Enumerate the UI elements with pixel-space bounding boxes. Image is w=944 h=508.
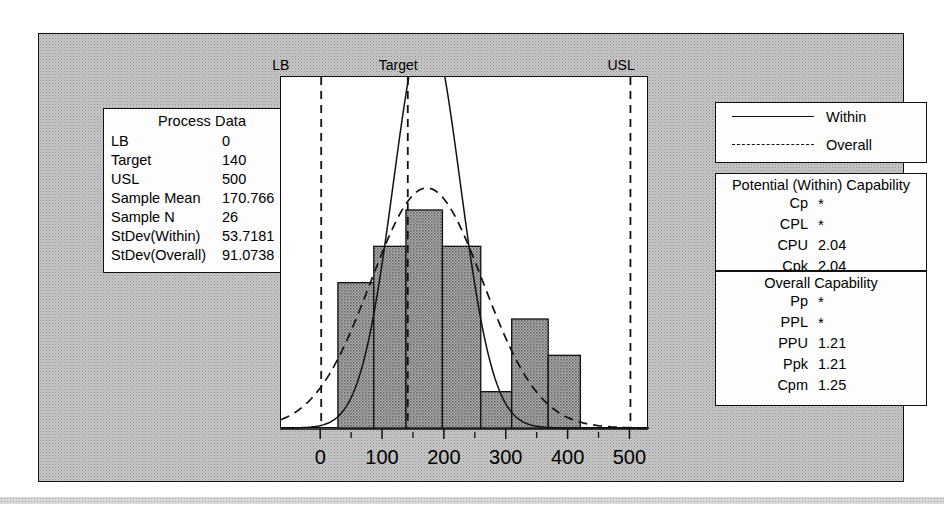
table-row: PPU 1.21 <box>716 333 926 354</box>
row-label: PPU <box>716 333 818 354</box>
row-value: 1.25 <box>818 375 878 396</box>
row-label: Cpm <box>716 375 818 396</box>
table-row: Sample N 26 <box>104 208 300 227</box>
overall-capability-title: Overall Capability <box>716 272 926 291</box>
within-capability-title: Potential (Within) Capability <box>716 174 926 193</box>
table-row: Target 140 <box>104 151 300 170</box>
row-value: 1.21 <box>818 354 878 375</box>
plot-canvas <box>281 77 649 429</box>
x-tick-label: 300 <box>489 446 522 469</box>
table-row: StDev(Within) 53.7181 <box>104 227 300 246</box>
within-capability-table: Potential (Within) Capability Cp * CPL *… <box>715 173 927 271</box>
solid-line-icon <box>732 111 814 123</box>
table-row: CPU 2.04 <box>716 235 926 256</box>
row-label: Ppk <box>716 354 818 375</box>
row-label: Sample Mean <box>104 189 222 208</box>
row-label: StDev(Overall) <box>104 246 222 265</box>
table-row: CPL * <box>716 214 926 235</box>
target-label: Target <box>379 57 418 73</box>
row-value: * <box>818 214 878 235</box>
process-data-rows: LB 0 Target 140 USL 500 Sample Mean 170.… <box>104 132 300 265</box>
legend-label: Within <box>826 109 866 125</box>
lb-label: LB <box>272 57 289 73</box>
x-tick-label: 100 <box>365 446 398 469</box>
process-data-table: Process Data LB 0 Target 140 USL 500 <box>103 108 301 273</box>
x-tick-label: 500 <box>613 446 646 469</box>
dashed-line-icon <box>732 139 814 151</box>
capability-report: Process Data LB 0 Target 140 USL 500 <box>0 0 944 508</box>
row-label: CPL <box>716 214 818 235</box>
table-row: Ppk 1.21 <box>716 354 926 375</box>
table-row: USL 500 <box>104 170 300 189</box>
table-row: Cp * <box>716 193 926 214</box>
x-axis: 0100200300400500 <box>280 428 652 474</box>
table-row: LB 0 <box>104 132 300 151</box>
table-row: StDev(Overall) 91.0738 <box>104 246 300 265</box>
table-row: Pp * <box>716 291 926 312</box>
row-label: StDev(Within) <box>104 227 222 246</box>
process-data-title: Process Data <box>104 109 300 129</box>
histogram-plot <box>280 76 648 428</box>
row-label: LB <box>104 132 222 151</box>
row-label: CPU <box>716 235 818 256</box>
x-tick-label: 0 <box>315 446 326 469</box>
row-label: Target <box>104 151 222 170</box>
row-value: 2.04 <box>818 235 878 256</box>
overall-capability-table: Overall Capability Pp * PPL * PPU 1.21 P… <box>715 271 927 406</box>
table-row: Cpm 1.25 <box>716 375 926 396</box>
x-axis-ticks <box>280 428 652 444</box>
x-tick-label: 400 <box>551 446 584 469</box>
row-value: * <box>818 193 878 214</box>
row-label: Pp <box>716 291 818 312</box>
row-label: PPL <box>716 312 818 333</box>
table-row: PPL * <box>716 312 926 333</box>
row-value: 1.21 <box>818 333 878 354</box>
legend-label: Overall <box>826 137 872 153</box>
table-row: Sample Mean 170.766 <box>104 189 300 208</box>
row-label: Sample N <box>104 208 222 227</box>
row-value: * <box>818 291 878 312</box>
x-tick-label: 200 <box>427 446 460 469</box>
chart-legend: Within Overall <box>715 102 927 163</box>
legend-item-overall: Overall <box>716 131 926 159</box>
page-footer-strip <box>0 497 944 504</box>
row-value: * <box>818 312 878 333</box>
usl-label: USL <box>607 57 634 73</box>
row-label: Cp <box>716 193 818 214</box>
row-label: USL <box>104 170 222 189</box>
legend-item-within: Within <box>716 103 926 131</box>
